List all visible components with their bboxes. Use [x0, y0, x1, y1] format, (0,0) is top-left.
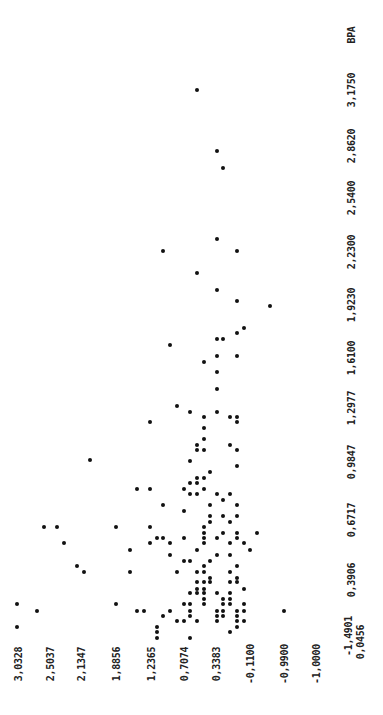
data-point: [235, 580, 239, 584]
x-tick-label: 0,3906: [346, 563, 357, 597]
y-tick-label: 1,8856: [111, 647, 122, 681]
data-point: [62, 541, 66, 545]
x-tick-label: 0,9847: [346, 445, 357, 479]
data-point: [188, 609, 192, 613]
data-point: [202, 437, 206, 441]
data-point: [235, 619, 239, 623]
data-point: [161, 503, 165, 507]
data-point: [202, 360, 206, 364]
data-point: [182, 536, 186, 540]
data-point: [202, 580, 206, 584]
data-point: [182, 619, 186, 623]
data-point: [82, 570, 86, 574]
data-point: [195, 448, 199, 452]
data-point: [148, 420, 152, 424]
data-point: [114, 525, 118, 529]
data-point: [215, 536, 219, 540]
data-point: [235, 614, 239, 618]
data-point: [202, 591, 206, 595]
data-point: [228, 630, 232, 634]
data-point: [42, 525, 46, 529]
data-point: [228, 492, 232, 496]
data-point: [208, 514, 212, 518]
data-point: [248, 548, 252, 552]
data-point: [228, 570, 232, 574]
data-point: [221, 614, 225, 618]
data-point: [168, 553, 172, 557]
data-point: [35, 609, 39, 613]
data-point: [235, 609, 239, 613]
data-point: [195, 580, 199, 584]
y-tick-label: 2,1347: [76, 647, 87, 681]
data-point: [221, 597, 225, 601]
data-point: [235, 625, 239, 629]
data-point: [75, 564, 79, 568]
data-point: [215, 337, 219, 341]
data-point: [155, 630, 159, 634]
data-point: [202, 476, 206, 480]
data-point: [182, 602, 186, 606]
data-point: [188, 410, 192, 414]
data-point: [128, 570, 132, 574]
data-point: [202, 448, 206, 452]
data-point: [282, 609, 286, 613]
data-point: [188, 492, 192, 496]
data-point: [155, 636, 159, 640]
data-point: [215, 354, 219, 358]
x-tick-label: 0,6717: [346, 503, 357, 537]
data-point: [228, 602, 232, 606]
y-tick-label: 2,5037: [45, 647, 56, 681]
data-point: [195, 619, 199, 623]
y-tick-label: -0,1100: [245, 644, 256, 684]
data-point: [15, 602, 19, 606]
data-point: [228, 520, 232, 524]
data-point: [208, 470, 212, 474]
y-tick-label: -0,9900: [279, 644, 290, 684]
data-point: [221, 166, 225, 170]
data-point: [215, 609, 219, 613]
data-point: [208, 520, 212, 524]
x-tick-label: 1,2977: [346, 391, 357, 425]
data-point: [202, 531, 206, 535]
data-point: [242, 326, 246, 330]
x-tick-label: 2,5400: [346, 181, 357, 215]
data-point: [188, 614, 192, 618]
data-point: [88, 458, 92, 462]
data-point: [142, 609, 146, 613]
data-point: [255, 531, 259, 535]
data-point: [202, 525, 206, 529]
data-point: [221, 337, 225, 341]
data-point: [195, 548, 199, 552]
data-point: [242, 541, 246, 545]
data-point: [215, 619, 219, 623]
x-axis-title: BPA: [346, 26, 357, 43]
data-point: [215, 237, 219, 241]
x-tick-label: 2,8620: [346, 129, 357, 163]
data-point: [202, 541, 206, 545]
y-tick-label: -1,4901: [343, 616, 354, 656]
data-point: [161, 536, 165, 540]
data-point: [215, 553, 219, 557]
data-point: [202, 564, 206, 568]
data-point: [202, 415, 206, 419]
data-point: [195, 492, 199, 496]
x-tick-label: 1,6100: [346, 341, 357, 375]
data-point: [188, 559, 192, 563]
data-point: [148, 525, 152, 529]
data-point: [215, 149, 219, 153]
data-point: [228, 580, 232, 584]
data-point: [268, 304, 272, 308]
data-point: [161, 249, 165, 253]
data-point: [242, 619, 246, 623]
y-tick-label: 0,7074: [179, 647, 190, 681]
data-point: [215, 591, 219, 595]
data-point: [168, 609, 172, 613]
x-tick-label: 3,1750: [346, 73, 357, 107]
data-point: [235, 514, 239, 518]
data-point: [235, 448, 239, 452]
data-point: [202, 602, 206, 606]
data-point: [242, 609, 246, 613]
data-point: [175, 570, 179, 574]
y-tick-label: 0,3383: [211, 647, 222, 681]
data-point: [221, 602, 225, 606]
